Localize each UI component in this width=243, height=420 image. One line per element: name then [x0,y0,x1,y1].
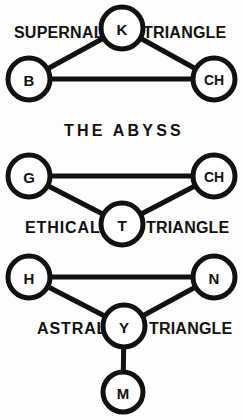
label-astral: ASTRAL [37,320,107,337]
group-supernal-triangle: K B CH SUPERNAL TRIANGLE [8,7,235,100]
label-astral-triangle: TRIANGLE [149,320,233,337]
label-ethical: ETHICAL [25,219,101,236]
node-n[interactable]: N [193,256,235,298]
label-supernal-triangle: TRIANGLE [143,24,227,41]
node-k-label: K [117,21,128,38]
node-b-label: B [24,72,35,89]
node-m[interactable]: M [103,372,143,412]
node-y[interactable]: Y [103,305,145,347]
label-ethical-triangle: TRIANGLE [146,219,230,236]
group-ethical-triangle: G CH T ETHICAL TRIANGLE [8,155,235,245]
node-ch-supernal[interactable]: CH [193,58,235,100]
node-ch-supernal-label: CH [204,72,224,88]
node-t[interactable]: T [101,203,143,245]
node-t-label: T [117,217,126,234]
node-ch-ethical[interactable]: CH [193,155,235,197]
node-g[interactable]: G [8,155,50,197]
node-n-label: N [209,270,220,287]
node-b[interactable]: B [8,58,50,100]
node-k[interactable]: K [101,7,143,49]
tree-of-life-diagram: K B CH SUPERNAL TRIANGLE THE ABYSS [0,0,243,420]
label-the-abyss: THE ABYSS [64,122,184,139]
group-astral-triangle: H N Y M ASTRAL TRIANGLE [8,256,235,412]
node-g-label: G [23,169,35,186]
node-h[interactable]: H [8,256,50,298]
node-ch-ethical-label: CH [204,169,224,185]
node-h-label: H [24,270,35,287]
label-supernal: SUPERNAL [14,24,104,41]
diagram-canvas: K B CH SUPERNAL TRIANGLE THE ABYSS [0,0,243,420]
node-m-label: M [117,385,130,402]
node-y-label: Y [119,319,129,336]
